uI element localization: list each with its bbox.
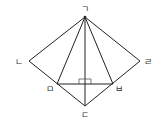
segment-AB <box>29 17 85 61</box>
apex-point <box>84 16 87 19</box>
label-mieum: ㅁ <box>46 84 54 94</box>
label-giyeok: ㄱ <box>81 4 89 14</box>
segment-AE <box>57 17 85 84</box>
segment-DA <box>85 17 140 61</box>
label-digeut: ㄷ <box>81 110 89 120</box>
geometry-diagram: ㄱ ㄴ ㄷ ㄹ ㅁ ㅂ <box>0 0 165 125</box>
segment-AF <box>85 17 113 84</box>
label-nieun: ㄴ <box>15 57 23 67</box>
label-bieup: ㅂ <box>115 84 123 94</box>
label-rieul: ㄹ <box>144 57 152 67</box>
